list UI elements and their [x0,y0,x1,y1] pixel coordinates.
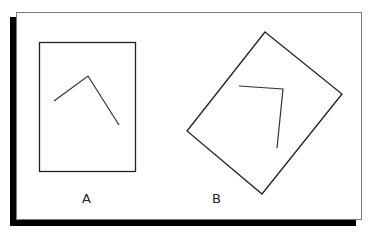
diagram-canvas: A B [0,0,374,233]
label-a: A [82,191,91,206]
frame-shadow-left [10,17,16,226]
frame-shadow-bottom [10,220,356,226]
label-b: B [212,191,221,206]
figure-frame [17,13,362,220]
